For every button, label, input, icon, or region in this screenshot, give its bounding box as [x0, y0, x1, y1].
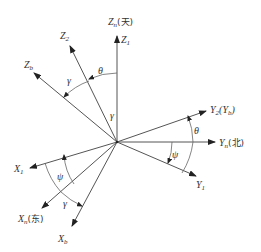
angle-gamma-top: γ — [67, 75, 72, 86]
label-y2-yb: Y2(Yb) — [210, 104, 235, 117]
label-z1: Z1 — [121, 34, 130, 47]
axis-x1 — [30, 142, 117, 168]
angle-psi-right: ψ — [172, 149, 179, 160]
label-xb: Xb — [57, 233, 68, 246]
angle-gamma-mid: γ — [110, 110, 115, 121]
origin-point — [116, 141, 118, 143]
angle-gamma-bottom: γ — [63, 198, 68, 209]
label-zb: Zb — [24, 59, 34, 72]
angle-theta-top: θ — [98, 65, 103, 76]
label-y1: Y1 — [196, 179, 205, 192]
angle-theta-right: θ — [194, 125, 199, 136]
axis-z2 — [70, 46, 117, 142]
axis-xb — [72, 142, 117, 226]
arc-theta-right — [188, 116, 193, 142]
label-yn: Yn(北) — [219, 137, 244, 150]
label-z2: Z2 — [60, 30, 70, 43]
axis-xn — [42, 142, 117, 208]
coordinate-frame-diagram: Zn(天) Z1 Z2 Zb Y2(Yb) Yn(北) Y1 X1 Xn(东) … — [0, 0, 261, 252]
label-xn: Xn(东) — [17, 213, 44, 226]
angle-psi-left: ψ — [57, 171, 64, 182]
arc-yn-to-y1-outer — [182, 142, 193, 173]
axis-zb — [34, 73, 117, 142]
label-zn: Zn(天) — [108, 16, 133, 29]
axis-y1 — [117, 142, 196, 176]
arc-psi-left — [64, 155, 74, 184]
arc-theta-top — [89, 73, 117, 79]
label-x1: X1 — [13, 163, 24, 176]
